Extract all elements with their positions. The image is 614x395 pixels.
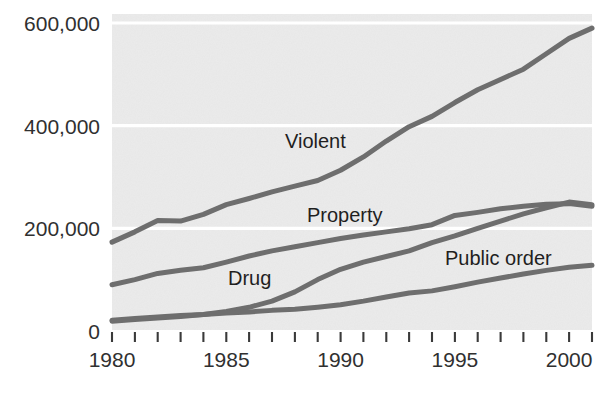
x-tick-label-2000: 2000 [546,348,593,371]
series-label-property: Property [307,204,383,226]
x-tick-label-1980: 1980 [89,348,136,371]
y-tick-label-400000: 400,000 [24,115,100,138]
series-label-public-order: Public order [445,247,552,269]
line-chart: 600,000 400,000 200,000 0 [0,0,614,395]
x-tick-label-1985: 1985 [203,348,250,371]
y-tick-label-0: 0 [88,320,100,343]
series-label-drug: Drug [228,267,271,289]
chart-figure: 600,000 400,000 200,000 0 [0,0,614,395]
x-tick-label-1995: 1995 [432,348,479,371]
x-tick-label-1990: 1990 [317,348,364,371]
plot-background-grain [112,14,592,330]
series-label-violent: Violent [285,130,346,152]
y-tick-label-600000: 600,000 [24,12,100,35]
y-tick-label-200000: 200,000 [24,217,100,240]
plot-area [112,14,592,330]
